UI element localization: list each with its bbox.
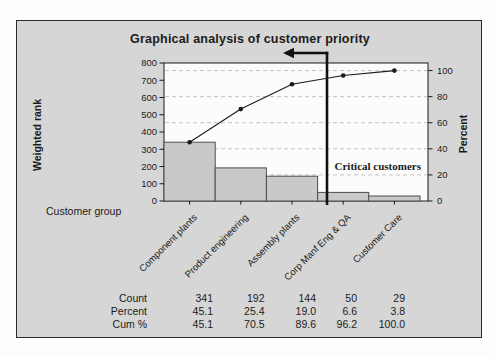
x-axis-title: Customer group: [46, 205, 121, 217]
y-axis-left-title: Weighted rank: [31, 99, 43, 171]
category-label: Assembly plants: [245, 211, 302, 268]
svg-text:700: 700: [141, 75, 157, 86]
svg-text:500: 500: [141, 109, 157, 120]
table-row-label: Count: [57, 292, 147, 304]
table-row-label: Cum %: [57, 318, 147, 330]
svg-text:300: 300: [141, 144, 157, 155]
svg-text:20: 20: [437, 169, 448, 180]
svg-text:0: 0: [152, 195, 157, 206]
svg-text:800: 800: [141, 57, 157, 68]
category-label: Customer Care: [350, 212, 403, 265]
svg-text:200: 200: [141, 161, 157, 172]
critical-customers-annotation: Critical customers: [307, 160, 421, 172]
table-value: 3.8: [345, 305, 405, 317]
svg-text:400: 400: [141, 126, 157, 137]
svg-text:100: 100: [437, 65, 453, 76]
figure-panel: 0100200300400500600700800020406080100Com…: [16, 20, 482, 338]
svg-text:60: 60: [437, 117, 448, 128]
table-row-label: Percent: [57, 305, 147, 317]
y-axis-right-title: Percent: [457, 115, 469, 154]
svg-text:40: 40: [437, 143, 448, 154]
svg-text:0: 0: [437, 195, 442, 206]
svg-text:100: 100: [141, 178, 157, 189]
svg-text:600: 600: [141, 92, 157, 103]
table-value: 29: [345, 292, 405, 304]
svg-text:80: 80: [437, 91, 448, 102]
chart-title: Graphical analysis of customer priority: [17, 32, 483, 46]
scanned-page-background: 0100200300400500600700800020406080100Com…: [0, 0, 494, 356]
table-value: 100.0: [345, 318, 405, 330]
